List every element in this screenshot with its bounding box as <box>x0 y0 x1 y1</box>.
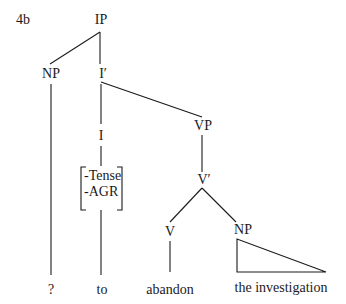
node-i-bar: I′ <box>99 66 107 82</box>
edge-ibar-vp <box>101 82 202 117</box>
leaf-infl: to <box>97 282 108 298</box>
feature-tense: -Tense <box>84 168 121 184</box>
edge-vbar-np <box>202 188 236 222</box>
edge-vbar-v <box>170 188 202 222</box>
node-i: I <box>99 128 104 144</box>
node-np-subject: NP <box>42 66 60 82</box>
node-v-bar: V′ <box>197 172 210 188</box>
node-ip: IP <box>95 12 107 28</box>
np-triangle <box>237 239 326 272</box>
node-vp: VP <box>194 118 212 134</box>
edge-ip-np <box>50 32 100 64</box>
feature-agr: -AGR <box>84 184 121 200</box>
leaf-verb: abandon <box>146 282 193 298</box>
leaf-object: the investigation <box>235 280 328 296</box>
tree-edges <box>0 0 346 304</box>
example-label: 4b <box>16 12 30 28</box>
node-np-object: NP <box>234 222 252 238</box>
leaf-subject: ? <box>48 282 54 298</box>
feature-matrix: -Tense -AGR <box>84 168 121 200</box>
node-v: V <box>165 224 175 240</box>
